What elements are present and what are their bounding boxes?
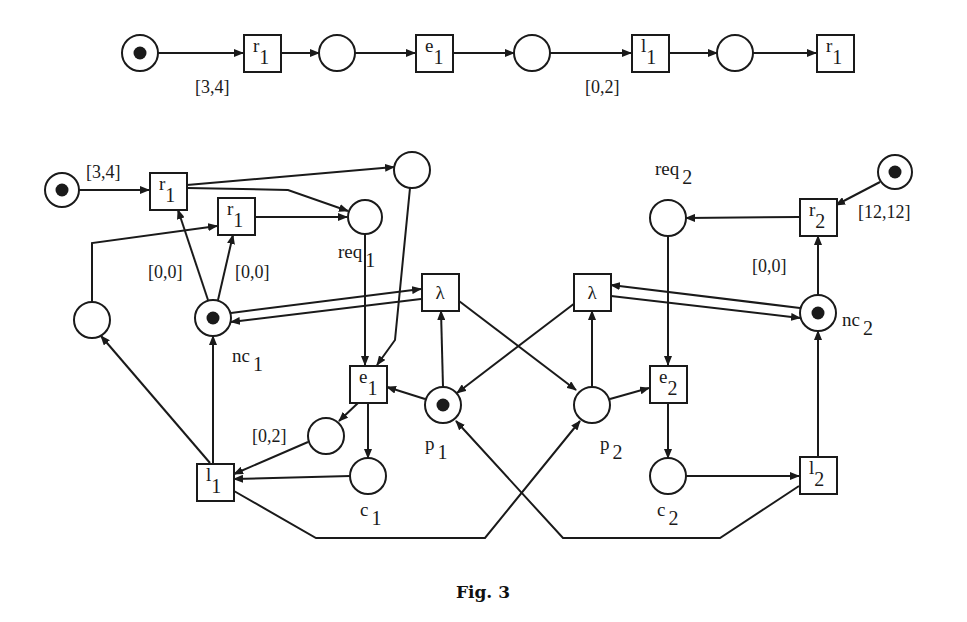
- place-label: req1: [338, 241, 375, 271]
- arc-arrow: [234, 476, 350, 479]
- arc-arrow: [101, 336, 210, 463]
- place-circle: [74, 302, 110, 338]
- place: [717, 35, 753, 71]
- place-circle: [574, 387, 610, 423]
- token-dot: [56, 184, 69, 197]
- place-label: c1: [360, 499, 381, 529]
- interval-label: [0,2]: [252, 426, 287, 446]
- transition-l1: l1: [632, 35, 669, 72]
- petri-net-diagram: r1e1l1r1[3,4][0,2] req1nc1p1p2c1c2req2nc…: [0, 0, 967, 622]
- arc-arrow: [178, 210, 208, 300]
- petri-net-figure: r1e1l1r1[3,4][0,2] req1nc1p1p2c1c2req2nc…: [0, 0, 967, 622]
- token-dot: [812, 307, 825, 320]
- place: [74, 302, 110, 338]
- place-label: p1: [425, 433, 448, 463]
- place: [878, 155, 912, 189]
- transition-lambda: λ: [422, 274, 459, 311]
- arc-arrow: [387, 387, 425, 399]
- transition-r2: r2: [800, 199, 837, 236]
- place: [319, 35, 355, 71]
- interval-label: [3,4]: [86, 162, 121, 182]
- transition-l2: l2: [800, 457, 837, 494]
- transition-r1: r1: [150, 173, 187, 210]
- place-circle: [394, 152, 430, 188]
- place-req2: req2: [650, 158, 692, 236]
- arc-arrow: [457, 303, 575, 393]
- place-label: c2: [657, 499, 678, 529]
- transition-e1: e1: [416, 35, 453, 72]
- top-chain-sequence: r1e1l1r1[3,4][0,2]: [122, 35, 854, 97]
- transition-r1: r1: [244, 35, 281, 72]
- transition-label: λ: [587, 282, 597, 303]
- token-dot: [134, 47, 147, 60]
- main-petri-net: req1nc1p1p2c1c2req2nc2r1r1λλe1e2l1l2r2[3…: [45, 152, 912, 538]
- place-label: nc1: [232, 345, 263, 375]
- figure-caption: Fig. 3: [456, 582, 510, 602]
- place-circle: [514, 35, 550, 71]
- place-c1: c1: [350, 458, 386, 529]
- arc-arrow: [234, 442, 308, 474]
- token-dot: [437, 399, 450, 412]
- place: [514, 35, 550, 71]
- token-dot: [889, 166, 902, 179]
- transition-l1: l1: [197, 464, 234, 501]
- interval-label: [3,4]: [195, 77, 230, 97]
- interval-label: [0,2]: [585, 77, 620, 97]
- place-label: p2: [600, 433, 623, 463]
- place: [394, 152, 430, 188]
- place-circle: [350, 458, 386, 494]
- transition-r1: r1: [817, 35, 854, 72]
- arc-arrow: [231, 299, 421, 322]
- arc-arrow: [459, 301, 576, 390]
- place-label: nc2: [842, 309, 873, 339]
- arc-arrow: [218, 235, 233, 300]
- transition-lambda: λ: [574, 274, 611, 311]
- interval-label: [0,0]: [235, 262, 270, 282]
- arc-arrow: [610, 388, 649, 399]
- arc-arrow: [187, 188, 348, 211]
- arc-arrow: [339, 403, 358, 421]
- place-circle: [717, 35, 753, 71]
- interval-label: [0,0]: [148, 262, 183, 282]
- arc-arrow: [441, 311, 443, 387]
- place-circle: [650, 458, 686, 494]
- place-circle: [319, 35, 355, 71]
- place-nc2: nc2: [800, 295, 873, 339]
- transition-label: λ: [435, 282, 445, 303]
- place-circle: [308, 418, 344, 454]
- arc-arrow: [611, 296, 800, 318]
- arc-arrow: [686, 217, 799, 218]
- interval-label: [0,0]: [752, 256, 787, 276]
- place-circle: [348, 200, 382, 234]
- place-p1: p1: [425, 387, 461, 463]
- arc-arrow: [187, 167, 394, 185]
- transition-e2: e2: [650, 366, 687, 403]
- arc-arrow: [456, 421, 799, 538]
- arc-arrow: [611, 285, 800, 308]
- place-c2: c2: [650, 458, 686, 529]
- place-circle: [650, 200, 686, 236]
- place-label: req2: [655, 158, 692, 188]
- transition-r1: r1: [218, 198, 255, 235]
- place: [122, 35, 158, 71]
- place: [45, 173, 79, 207]
- arc-arrow: [231, 289, 421, 313]
- interval-label: [12,12]: [858, 202, 911, 222]
- transition-e1: e1: [350, 366, 387, 403]
- token-dot: [207, 312, 220, 325]
- place: [308, 418, 344, 454]
